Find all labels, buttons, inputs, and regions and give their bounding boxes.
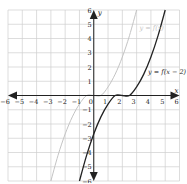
- y-tick-label: 6: [88, 7, 92, 15]
- x-tick-label: −4: [29, 98, 39, 106]
- x-tick-label: 2: [117, 98, 121, 106]
- y-tick-label: −5: [82, 163, 92, 171]
- label-f-x: y = f(x): [138, 24, 164, 32]
- x-tick-label: 5: [160, 98, 164, 106]
- y-tick-label: 3: [88, 49, 92, 57]
- x-tick-label: −3: [43, 98, 53, 106]
- y-tick-label: −1: [82, 106, 92, 114]
- y-tick-label: −3: [82, 135, 92, 143]
- x-tick-label: 3: [132, 98, 136, 106]
- y-tick-label: 1: [88, 78, 92, 86]
- y-tick-label: 2: [88, 64, 92, 72]
- y-tick-label: 4: [88, 35, 92, 43]
- x-tick-label: 4: [146, 98, 150, 106]
- x-tick-label: 0: [89, 98, 93, 106]
- x-tick-label: 6: [174, 98, 178, 106]
- x-tick-label: −5: [14, 98, 24, 106]
- graph-figure: xy −6−5−4−3−2−10123456−6−5−4−3−2−1123456…: [0, 0, 187, 183]
- y-tick-label: −6: [82, 178, 92, 184]
- y-tick-label: −4: [82, 149, 92, 157]
- x-tick-label: −1: [72, 98, 82, 106]
- x-tick-label: 1: [103, 98, 107, 106]
- axes: xy: [8, 9, 180, 181]
- y-tick-label: 5: [88, 21, 92, 29]
- y-tick-label: −2: [82, 121, 92, 129]
- x-axis-label: x: [175, 87, 179, 95]
- x-tick-label: −2: [57, 98, 67, 106]
- label-f-x-minus-2: y = f(x − 2): [147, 68, 187, 76]
- coordinate-plane: xy −6−5−4−3−2−10123456−6−5−4−3−2−1123456…: [0, 0, 187, 183]
- x-tick-label: −6: [0, 98, 10, 106]
